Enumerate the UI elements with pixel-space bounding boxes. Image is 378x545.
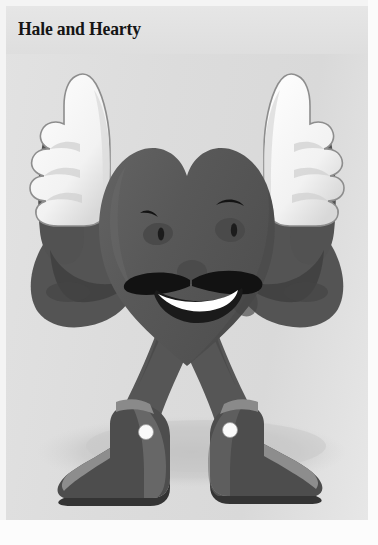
illustration-stage: [6, 54, 368, 520]
page-root: Hale and Hearty: [0, 0, 378, 545]
page-title: Hale and Hearty: [18, 18, 141, 40]
page-right-margin: [368, 0, 378, 545]
left-glove: [30, 74, 110, 226]
right-boot-button: [223, 423, 238, 438]
left-boot-button: [139, 425, 154, 440]
page-bottom-margin: [0, 520, 378, 545]
heart-mascot-illustration: [6, 54, 368, 520]
heart-body: [99, 148, 275, 366]
right-glove: [264, 74, 344, 226]
